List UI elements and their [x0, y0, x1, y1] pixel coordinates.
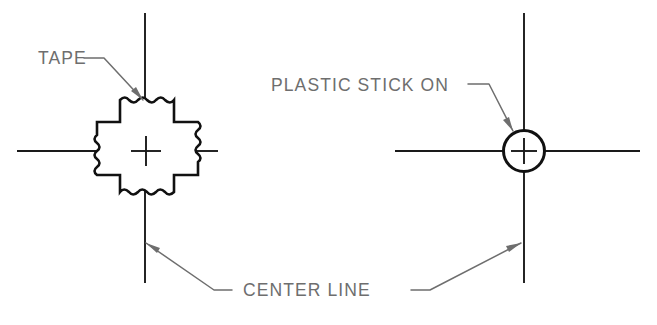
center-line-leader-right — [411, 243, 521, 290]
plastic-stick-on-label: PLASTIC STICK ON — [271, 75, 449, 95]
left-view-tape-marker: TAPE — [17, 13, 218, 283]
center-line-right-arrowhead — [506, 243, 521, 252]
tape-leader-line — [84, 58, 143, 100]
plastic-stick-on-leader-arrowhead — [503, 117, 513, 131]
center-line-annotation: CENTER LINE — [146, 243, 521, 300]
right-view-plastic-marker: PLASTIC STICK ON — [271, 13, 640, 283]
plastic-stick-on-leader-line — [468, 84, 513, 131]
technical-drawing-canvas: TAPE PLASTIC STICK ON — [0, 0, 657, 325]
tape-label: TAPE — [38, 48, 87, 68]
center-line-label: CENTER LINE — [243, 280, 371, 300]
center-line-leader-left — [146, 243, 232, 290]
center-line-left-arrowhead — [146, 243, 160, 253]
tape-cross-outline — [95, 98, 201, 195]
drawing-svg: TAPE PLASTIC STICK ON — [0, 0, 657, 325]
